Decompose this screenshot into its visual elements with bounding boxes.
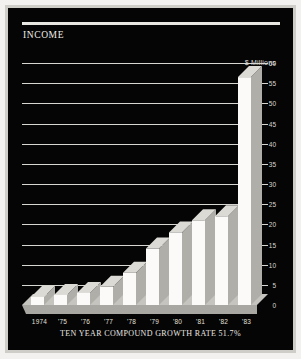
- bar-shape: [8, 8, 293, 350]
- bar-side-face: [251, 66, 262, 305]
- growth-rate-annotation: TEN YEAR COMPOUND GROWTH RATE 51.7%: [8, 329, 293, 338]
- bar-83: [8, 8, 293, 350]
- x-axis-tick-label: '76: [81, 318, 90, 325]
- chart-page: INCOME $ Millions 0510152025303540455055…: [0, 0, 301, 359]
- x-axis-tick-label: '83: [242, 318, 251, 325]
- bar-front-face: [238, 77, 251, 305]
- x-axis-tick-label: '79: [150, 318, 159, 325]
- chart-panel: INCOME $ Millions 0510152025303540455055…: [8, 8, 293, 350]
- x-axis-tick-label: '78: [127, 318, 136, 325]
- plot-area: 0510152025303540455055601974'75'76'77'78…: [8, 8, 293, 350]
- x-axis-tick-label: '81: [196, 318, 205, 325]
- x-axis-tick-label: '77: [104, 318, 113, 325]
- x-axis-tick-label: 1974: [32, 318, 47, 325]
- x-axis-tick-label: '82: [219, 318, 228, 325]
- x-axis-tick-label: '80: [173, 318, 182, 325]
- x-axis-tick-label: '75: [58, 318, 67, 325]
